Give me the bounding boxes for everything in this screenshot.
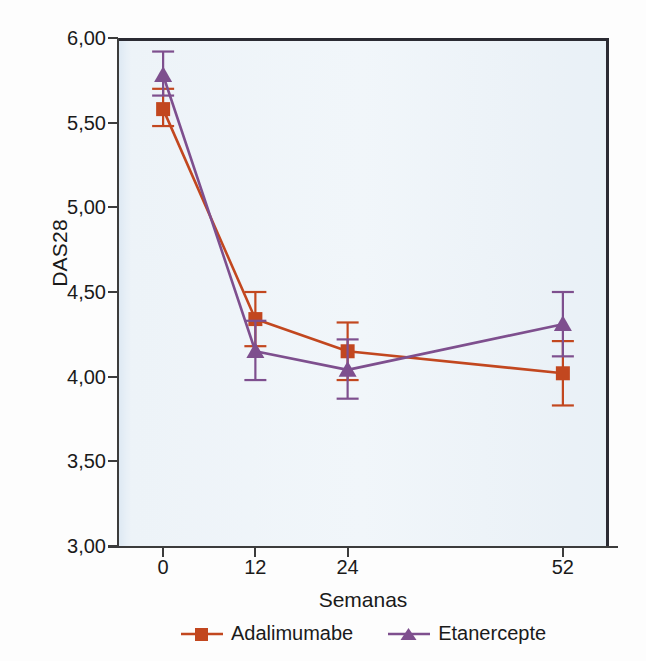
data-point-marker-triangle [246,342,264,358]
legend-marker-square [195,628,208,641]
legend-entry[interactable]: Etanercepte [387,622,546,645]
data-point-marker-triangle [554,315,572,331]
legend-swatch-triangle [387,626,431,642]
data-point-marker-square [156,102,170,116]
legend-swatch-square [180,626,224,642]
chart-figure: DAS28 6,005,505,004,504,003,503,00 01224… [0,0,646,661]
legend-entry[interactable]: Adalimumabe [180,622,353,645]
series-adalimumabe [152,89,574,406]
series-line [163,75,563,370]
legend-label: Adalimumabe [231,622,353,645]
series-layer [0,0,646,661]
legend-label: Etanercepte [438,622,546,645]
data-point-marker-square [556,366,570,380]
data-point-marker-triangle [154,66,172,82]
chart-legend: AdalimumabeEtanercepte [117,622,609,645]
series-line [163,109,563,373]
